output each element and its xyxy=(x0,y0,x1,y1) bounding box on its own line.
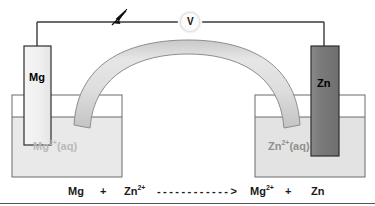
right-solution-state: (aq) xyxy=(289,140,309,152)
zn-electrode-body xyxy=(311,46,339,156)
equation-reactant-2: Zn2+ xyxy=(124,185,145,197)
left-solution-species: Mg xyxy=(33,140,49,152)
galvanic-cell-diagram: Mg Zn V Mg2+(aq) Zn2+(aq) Mg + Zn2+ - - … xyxy=(0,0,375,206)
left-solution-charge: 2+ xyxy=(49,139,57,146)
salt-bridge-body xyxy=(74,40,300,128)
left-solution-label: Mg2+(aq) xyxy=(33,141,77,152)
salt-bridge xyxy=(74,40,300,128)
equation-reactant-1: Mg xyxy=(68,185,84,197)
zn-electrode xyxy=(311,46,339,156)
equation-product-1-species: Mg xyxy=(250,185,266,197)
equation-arrow: - - - - - - - - - - - - > xyxy=(157,185,237,197)
left-solution-state: (aq) xyxy=(57,140,77,152)
right-beaker xyxy=(255,95,365,177)
zn-electrode-label: Zn xyxy=(317,78,330,89)
mg-electrode-label: Mg xyxy=(29,72,45,83)
equation-product-1-charge: 2+ xyxy=(266,184,274,191)
mg-electrode-body xyxy=(24,46,51,145)
mg-electrode xyxy=(24,46,51,145)
equation-plus-2: + xyxy=(285,185,291,197)
voltmeter-label: V xyxy=(187,17,194,27)
equation-product-1: Mg2+ xyxy=(250,185,274,197)
equation-reactant-2-charge: 2+ xyxy=(137,184,145,191)
right-solution-species: Zn xyxy=(268,140,281,152)
equation-product-2: Zn xyxy=(311,185,324,197)
equation-plus-1: + xyxy=(100,185,106,197)
diagram-canvas xyxy=(0,0,375,206)
right-solution-label: Zn2+(aq) xyxy=(268,141,310,152)
equation-reactant-2-species: Zn xyxy=(124,185,137,197)
